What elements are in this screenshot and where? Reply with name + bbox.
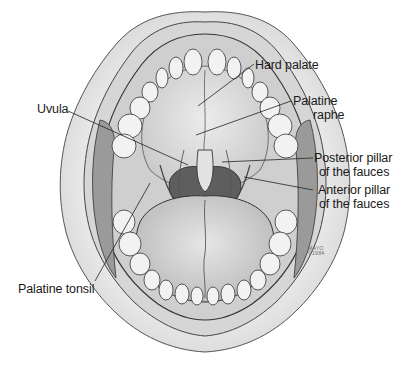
label-text: Palatine — [293, 94, 344, 108]
signature-year: ©1984 — [308, 251, 324, 256]
label-text: Anterior pillar — [318, 183, 390, 197]
label-text: Hard palate — [255, 58, 319, 72]
label-text: of the fauces — [318, 197, 390, 211]
label-text: of the fauces — [314, 165, 392, 179]
label-text: Palatine tonsil — [18, 282, 94, 296]
label-anterior-pillar: Anterior pillar of the fauces — [318, 183, 390, 211]
label-hard-palate: Hard palate — [255, 58, 319, 72]
artist-signature: MAYO ©1984 — [308, 246, 324, 256]
label-posterior-pillar: Posterior pillar of the fauces — [314, 151, 392, 179]
label-text: Uvula — [37, 102, 68, 116]
label-palatine-raphe: Palatine raphe — [293, 94, 344, 122]
label-text: Posterior pillar — [314, 151, 392, 165]
label-uvula: Uvula — [37, 102, 68, 116]
label-text: raphe — [293, 108, 344, 122]
anatomy-diagram: Hard palate Palatine raphe Uvula Posteri… — [0, 0, 410, 372]
label-palatine-tonsil: Palatine tonsil — [18, 282, 94, 296]
